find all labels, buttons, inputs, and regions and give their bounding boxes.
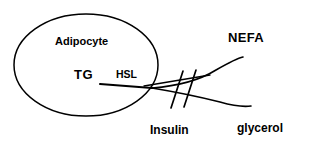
triglyceride-label: TG	[74, 68, 93, 81]
inhibition-slash-two	[184, 70, 196, 107]
insulin-label: Insulin	[150, 124, 189, 136]
glycerol-label: glycerol	[237, 122, 283, 134]
hsl-enzyme-label: HSL	[116, 69, 137, 80]
adipocyte-cell-outline	[14, 14, 158, 116]
lipolysis-diagram: junction --> Adipocyte TG HSL NEFA Insul…	[0, 0, 309, 154]
adipocyte-label: Adipocyte	[55, 36, 108, 47]
nefa-product-curve	[152, 57, 243, 88]
nefa-label: NEFA	[228, 31, 264, 44]
inhibition-slash-one	[171, 71, 183, 108]
glycerol-product-curve	[152, 88, 251, 106]
